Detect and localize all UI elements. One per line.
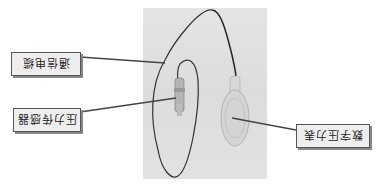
pressure-sensor-shape xyxy=(174,78,185,116)
label-digital-pressure-gauge: 数字压力表 xyxy=(296,124,370,148)
label-pressure-sensor: 压力传感器 xyxy=(13,108,81,132)
label-communication-cable: 通信电缆 xyxy=(11,52,81,76)
diagram-lines xyxy=(0,0,378,186)
digital-gauge-shape xyxy=(221,76,249,146)
leader-lines xyxy=(80,57,296,130)
